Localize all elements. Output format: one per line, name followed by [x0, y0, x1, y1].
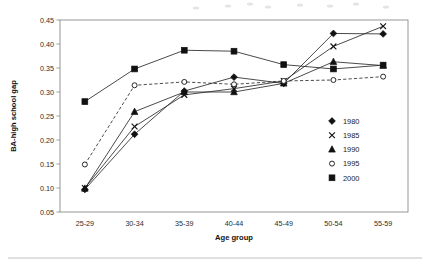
- series-line-1980: [85, 33, 383, 189]
- point-1990-50-54: [330, 58, 337, 64]
- point-1995-55-59: [381, 74, 386, 79]
- chart-figure: 0.050.100.150.200.250.300.350.400.4525-2…: [0, 0, 430, 268]
- y-tick-label-8: 0.45: [40, 16, 54, 25]
- y-tick-label-2: 0.15: [40, 160, 54, 169]
- point-1995-35-39: [182, 79, 187, 84]
- legend-marker-1980: [329, 118, 336, 125]
- point-1990-30-34: [131, 108, 138, 114]
- point-1995-40-44: [232, 82, 237, 87]
- scan-speck-1: [247, 2, 253, 5]
- scan-speck-7: [193, 6, 199, 9]
- point-1995-45-49: [281, 78, 286, 83]
- y-tick-label-4: 0.25: [40, 112, 54, 121]
- x-tick-label-0: 25-29: [76, 219, 94, 228]
- point-1995-50-54: [331, 78, 336, 83]
- legend-label-1985: 1985: [343, 131, 359, 140]
- x-axis-title: Age group: [215, 233, 253, 242]
- point-1980-55-59: [380, 31, 387, 38]
- point-2000-35-39: [181, 47, 187, 53]
- point-2000-50-54: [331, 66, 337, 72]
- legend-label-1980: 1980: [343, 117, 359, 126]
- y-tick-label-3: 0.20: [40, 136, 54, 145]
- scan-speck-2: [265, 5, 271, 8]
- point-1980-40-44: [231, 74, 238, 81]
- x-tick-label-1: 30-34: [125, 219, 143, 228]
- point-1985-50-54: [331, 44, 337, 50]
- legend-marker-1990: [329, 146, 336, 152]
- x-tick-label-6: 55-59: [374, 219, 392, 228]
- scan-speck-4: [327, 4, 333, 7]
- legend-label-1995: 1995: [343, 159, 359, 168]
- scan-speck-0: [225, 4, 231, 7]
- scan-speck-6: [383, 5, 389, 8]
- point-2000-30-34: [132, 66, 138, 72]
- x-tick-label-2: 35-39: [175, 219, 193, 228]
- legend-marker-2000: [329, 175, 335, 181]
- y-tick-label-0: 0.05: [40, 208, 54, 217]
- y-tick-label-6: 0.35: [40, 64, 54, 73]
- legend-marker-1995: [330, 161, 335, 166]
- point-1985-30-34: [132, 124, 138, 130]
- point-2000-40-44: [231, 48, 237, 54]
- x-tick-label-3: 40-44: [225, 219, 243, 228]
- y-tick-label-5: 0.30: [40, 88, 54, 97]
- y-tick-label-7: 0.40: [40, 40, 54, 49]
- y-axis-title: BA-high school gap: [9, 80, 18, 152]
- point-2000-45-49: [281, 62, 287, 68]
- point-2000-55-59: [380, 62, 386, 68]
- point-1995-25-29: [82, 162, 87, 167]
- point-1995-30-34: [132, 83, 137, 88]
- legend-marker-1985: [329, 132, 335, 138]
- point-1985-55-59: [380, 23, 386, 29]
- x-tick-label-4: 45-49: [275, 219, 293, 228]
- point-2000-25-29: [82, 99, 88, 105]
- chart-canvas: 0.050.100.150.200.250.300.350.400.4525-2…: [0, 0, 430, 268]
- scan-speck-3: [297, 3, 303, 6]
- legend-label-1990: 1990: [343, 145, 359, 154]
- scan-speck-5: [353, 2, 359, 5]
- y-tick-label-1: 0.10: [40, 184, 54, 193]
- legend-label-2000: 2000: [343, 174, 359, 183]
- x-tick-label-5: 50-54: [324, 219, 342, 228]
